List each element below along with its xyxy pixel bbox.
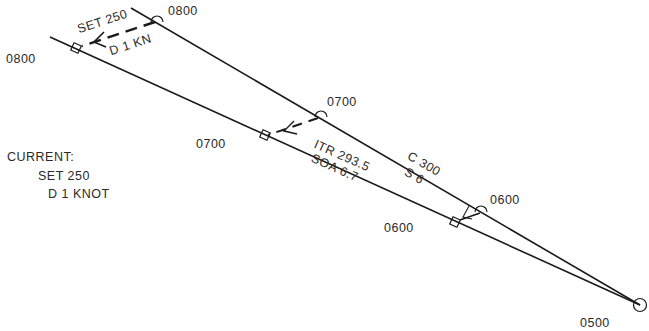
- track-time-0800: 0800: [6, 52, 36, 66]
- legend-drift: D 1 KNOT: [48, 187, 110, 201]
- legend-set: SET 250: [38, 169, 90, 183]
- current-vector-0700: [268, 118, 318, 135]
- dr-time-0600: 0600: [490, 193, 520, 207]
- dr-time-0700: 0700: [327, 95, 357, 109]
- legend-title: CURRENT:: [7, 150, 74, 164]
- dr-time-0800: 0800: [168, 4, 198, 18]
- dr-time-0500: 0500: [580, 316, 610, 330]
- track-time-0700: 0700: [196, 137, 226, 151]
- track-time-0600: 0600: [384, 221, 414, 235]
- dr-track-line: [131, 8, 640, 305]
